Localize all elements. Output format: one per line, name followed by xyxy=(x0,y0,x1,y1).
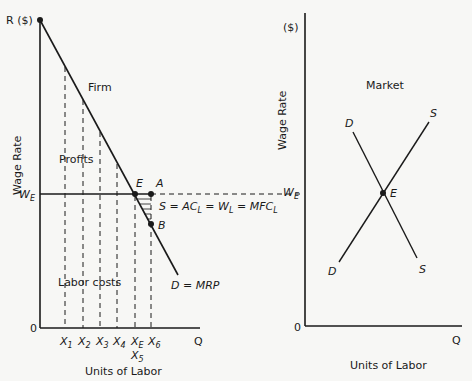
mrp-demand-line xyxy=(40,20,178,275)
tick-x5: X5 xyxy=(130,349,144,364)
market-s-bottom: S xyxy=(419,263,426,276)
tick-x2: X2 xyxy=(77,335,91,350)
market-d-top: D xyxy=(345,117,353,130)
supply-label: S = ACL = WL = MFCL xyxy=(159,200,278,215)
firm-x-ticks: X1 X2 X3 X4 XE X6 X5 xyxy=(59,335,161,364)
firm-x-axis-title: Units of Labor xyxy=(85,365,162,378)
market-x-axis-title: Units of Labor xyxy=(350,359,427,372)
market-panel-title: Market xyxy=(366,79,404,92)
market-wage-label: WE xyxy=(283,186,300,201)
firm-q-label: Q xyxy=(194,335,203,348)
firm-point-b xyxy=(148,221,154,227)
tick-x4: X4 xyxy=(112,335,126,350)
firm-point-r xyxy=(37,17,43,23)
market-point-e xyxy=(380,190,386,196)
market-s-top: S xyxy=(430,107,437,120)
labor-costs-label: Labor costs xyxy=(58,276,121,289)
firm-panel: R ($) Firm Wage Rate Profits Labor costs… xyxy=(6,14,300,378)
firm-point-a xyxy=(148,191,154,197)
firm-wage-label: WE xyxy=(19,188,36,203)
tick-xe: XE xyxy=(130,335,145,350)
tick-x1: X1 xyxy=(59,335,73,350)
market-origin: 0 xyxy=(294,321,301,334)
firm-panel-title: Firm xyxy=(88,81,112,94)
market-y-top-label: ($) xyxy=(283,21,299,34)
profits-label: Profits xyxy=(59,153,94,166)
mrp-label: D = MRP xyxy=(171,279,220,292)
market-e-label: E xyxy=(390,187,397,200)
market-d-bottom: D xyxy=(328,265,336,278)
labor-market-diagram: R ($) Firm Wage Rate Profits Labor costs… xyxy=(0,0,472,381)
firm-origin: 0 xyxy=(30,322,37,335)
market-panel: ($) Market Wage Rate WE E D S D S 0 Q Un… xyxy=(276,13,462,372)
firm-y-top-label: R ($) xyxy=(6,14,33,27)
firm-point-e xyxy=(132,191,138,197)
firm-y-axis-title: Wage Rate xyxy=(11,135,24,195)
tick-x6: X6 xyxy=(147,335,161,350)
tick-x3: X3 xyxy=(95,335,109,350)
market-q-label: Q xyxy=(452,334,461,347)
firm-a-label: A xyxy=(155,177,164,190)
market-y-axis-title: Wage Rate xyxy=(276,90,289,150)
firm-e-label: E xyxy=(136,177,143,190)
firm-b-label: B xyxy=(158,219,166,232)
